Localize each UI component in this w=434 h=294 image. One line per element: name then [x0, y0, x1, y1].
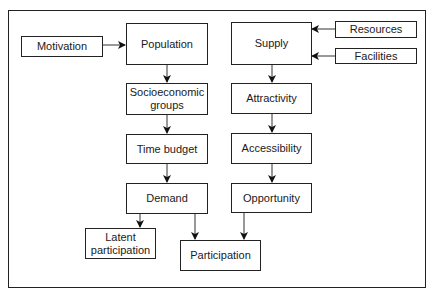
node-socioeconomic-groups: Socioeconomic groups	[126, 83, 208, 115]
node-time-budget: Time budget	[126, 134, 208, 164]
node-demand: Demand	[126, 183, 208, 214]
node-attractivity: Attractivity	[231, 83, 312, 114]
node-supply: Supply	[231, 22, 312, 65]
node-population: Population	[126, 23, 208, 65]
node-facilities: Facilities	[335, 48, 417, 64]
node-latent-participation: Latent participation	[85, 228, 156, 259]
node-participation: Participation	[180, 240, 261, 271]
node-accessibility: Accessibility	[231, 133, 312, 164]
node-resources: Resources	[335, 21, 417, 38]
node-opportunity: Opportunity	[231, 183, 312, 213]
node-motivation: Motivation	[21, 36, 103, 57]
